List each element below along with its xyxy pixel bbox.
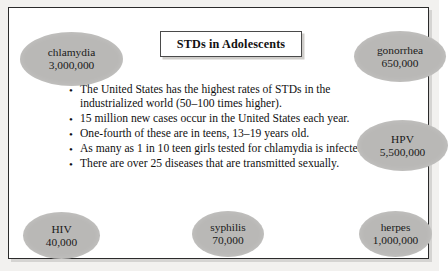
list-item-text: There are over 25 diseases that are tran… [80, 157, 369, 171]
stat-bubble-label: chlamydia [48, 46, 95, 59]
list-item: • As many as 1 in 10 teen girls tested f… [69, 142, 369, 156]
stat-bubble-value: 5,500,000 [380, 146, 426, 159]
stat-bubble-value: 40,000 [46, 236, 77, 249]
stat-bubble-label: HIV [51, 223, 71, 236]
page-title: STDs in Adolescents [177, 37, 286, 52]
stat-bubble-hiv: HIV 40,000 [23, 212, 100, 259]
stat-bubble-label: gonorrhea [377, 44, 423, 57]
bullet-dot-icon: • [69, 142, 80, 156]
stat-bubble-value: 3,000,000 [49, 59, 95, 72]
stat-bubble-label: herpes [381, 221, 411, 234]
stat-bubble-gonorrhea: gonorrhea 650,000 [354, 31, 446, 82]
stat-bubble-herpes: herpes 1,000,000 [359, 211, 432, 257]
bullet-dot-icon: • [69, 157, 80, 171]
stat-bubble-hpv: HPV 5,500,000 [357, 120, 448, 171]
list-item-text: 15 million new cases occur in the United… [80, 112, 369, 126]
list-item-text: As many as 1 in 10 teen girls tested for… [80, 142, 369, 156]
slide-title-box: STDs in Adolescents [160, 31, 302, 57]
list-item-text: One-fourth of these are in teens, 13–19 … [80, 127, 369, 141]
list-item: • There are over 25 diseases that are tr… [69, 157, 369, 171]
slide-frame: STDs in Adolescents • The United States … [8, 7, 429, 259]
bullet-dot-icon: • [69, 112, 80, 126]
bullet-list: • The United States has the highest rate… [69, 83, 369, 172]
list-item: • One-fourth of these are in teens, 13–1… [69, 127, 369, 141]
list-item: • The United States has the highest rate… [69, 83, 369, 112]
bullet-dot-icon: • [69, 127, 80, 141]
stat-bubble-value: 1,000,000 [373, 234, 419, 247]
stat-bubble-chlamydia: chlamydia 3,000,000 [20, 32, 123, 86]
list-item-text: The United States has the highest rates … [80, 83, 369, 112]
stat-bubble-label: syphilis [210, 221, 245, 234]
stat-bubble-value: 70,000 [212, 234, 243, 247]
stat-bubble-syphilis: syphilis 70,000 [192, 211, 264, 257]
stat-bubble-value: 650,000 [381, 57, 418, 70]
list-item: • 15 million new cases occur in the Unit… [69, 112, 369, 126]
stat-bubble-label: HPV [391, 133, 414, 146]
